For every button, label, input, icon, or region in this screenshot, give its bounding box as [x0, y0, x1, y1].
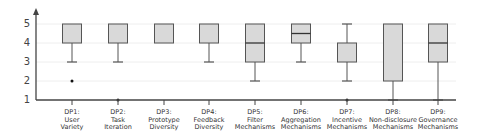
- y-tick-label: 2: [16, 75, 30, 86]
- outlier-point: [71, 80, 74, 83]
- box: [384, 24, 403, 81]
- box: [338, 43, 357, 62]
- box: [200, 24, 219, 43]
- box: [109, 24, 128, 43]
- y-tick-label: 5: [16, 18, 30, 29]
- y-tick-label: 3: [16, 56, 30, 67]
- x-category-label: DP9:GovernanceMechanisms: [408, 109, 468, 132]
- box: [63, 24, 82, 43]
- box-plot-chart: 12345 DP1:UserVarietyDP2:TaskIterationDP…: [0, 0, 479, 138]
- y-tick-label: 4: [16, 37, 30, 48]
- y-axis-arrow-icon: [33, 8, 39, 15]
- box: [155, 24, 174, 43]
- y-tick-label: 1: [16, 94, 30, 105]
